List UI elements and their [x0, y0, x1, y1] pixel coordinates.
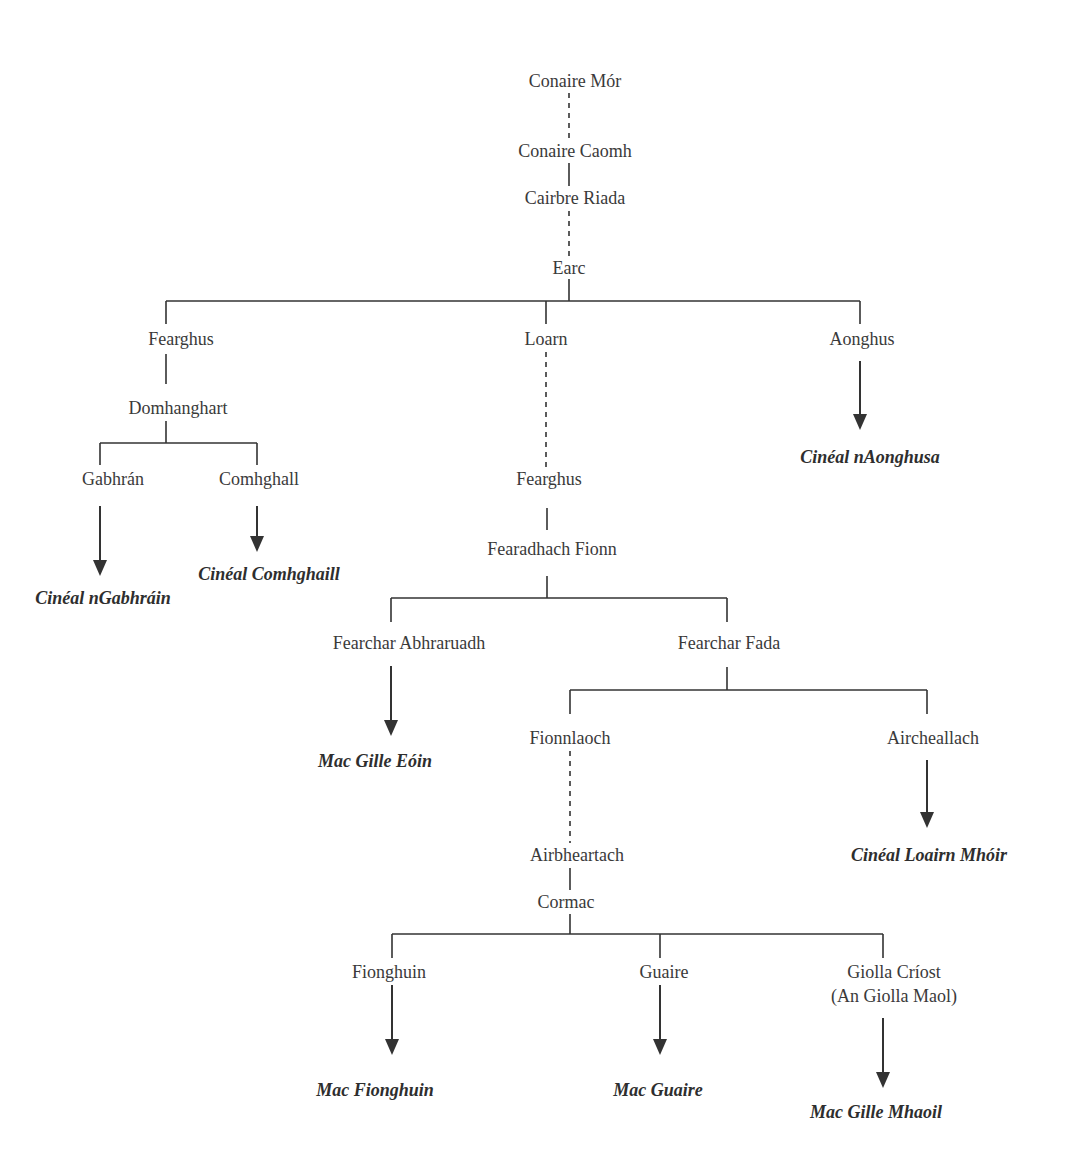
- lineage-cineal-ngabhrain: Cinéal nGabhráin: [35, 587, 171, 609]
- node-fearadhach-fionn: Fearadhach Fionn: [487, 538, 616, 560]
- node-fionghuin: Fionghuin: [352, 961, 426, 983]
- lineage-mac-guaire: Mac Guaire: [613, 1079, 703, 1101]
- node-fearchar-fada: Fearchar Fada: [678, 632, 780, 654]
- node-fionnlaoch: Fionnlaoch: [530, 727, 611, 749]
- down-arrow-icon: [653, 985, 667, 1055]
- node-aircheallach: Aircheallach: [887, 727, 979, 749]
- node-cairbre-riada: Cairbre Riada: [525, 187, 625, 209]
- node-guaire: Guaire: [640, 961, 689, 983]
- direct-descent-connectors: [100, 163, 927, 958]
- down-arrow-icon: [920, 760, 934, 828]
- node-loarn: Loarn: [525, 328, 568, 350]
- lineage-mac-gille-mhaoil: Mac Gille Mhaoil: [810, 1101, 942, 1123]
- node-giolla-criost: Giolla Críost: [847, 961, 941, 983]
- arrow-head: [653, 1039, 667, 1055]
- node-aonghus: Aonghus: [829, 328, 894, 350]
- arrow-head: [93, 560, 107, 576]
- lineage-cineal-naonghusa: Cinéal nAonghusa: [800, 446, 940, 468]
- down-arrow-icon: [93, 506, 107, 576]
- arrow-head: [250, 536, 264, 552]
- down-arrow-icon: [853, 361, 867, 430]
- lineage-cineal-loairn-mhoir: Cinéal Loairn Mhóir: [851, 844, 1007, 866]
- node-airbheartach: Airbheartach: [530, 844, 624, 866]
- node-comhghall: Comhghall: [219, 468, 299, 490]
- node-earc: Earc: [553, 257, 586, 279]
- node-fearghus-1: Fearghus: [148, 328, 214, 350]
- node-giolla-criost-alias: (An Giolla Maol): [831, 985, 957, 1007]
- arrow-head: [384, 720, 398, 736]
- node-gabhran: Gabhrán: [82, 468, 144, 490]
- node-conaire-caomh: Conaire Caomh: [518, 140, 631, 162]
- down-arrow-icon: [385, 985, 399, 1055]
- arrow-head: [853, 414, 867, 430]
- down-arrow-icon: [384, 666, 398, 736]
- node-cormac: Cormac: [538, 891, 595, 913]
- lineage-mac-fionghuin: Mac Fionghuin: [316, 1079, 434, 1101]
- node-domhanghart: Domhanghart: [129, 397, 228, 419]
- down-arrow-icon: [876, 1018, 890, 1088]
- arrow-head: [920, 812, 934, 828]
- arrow-head: [876, 1072, 890, 1088]
- arrow-head: [385, 1039, 399, 1055]
- node-fearghus-2: Fearghus: [516, 468, 582, 490]
- down-arrow-icon: [250, 506, 264, 552]
- lineage-cineal-comhghaill: Cinéal Comhghaill: [198, 563, 340, 585]
- lineage-mac-gille-eoin: Mac Gille Eóin: [318, 750, 432, 772]
- node-fearchar-abhraruadh: Fearchar Abhraruadh: [333, 632, 485, 654]
- node-conaire-mor: Conaire Mór: [529, 70, 621, 92]
